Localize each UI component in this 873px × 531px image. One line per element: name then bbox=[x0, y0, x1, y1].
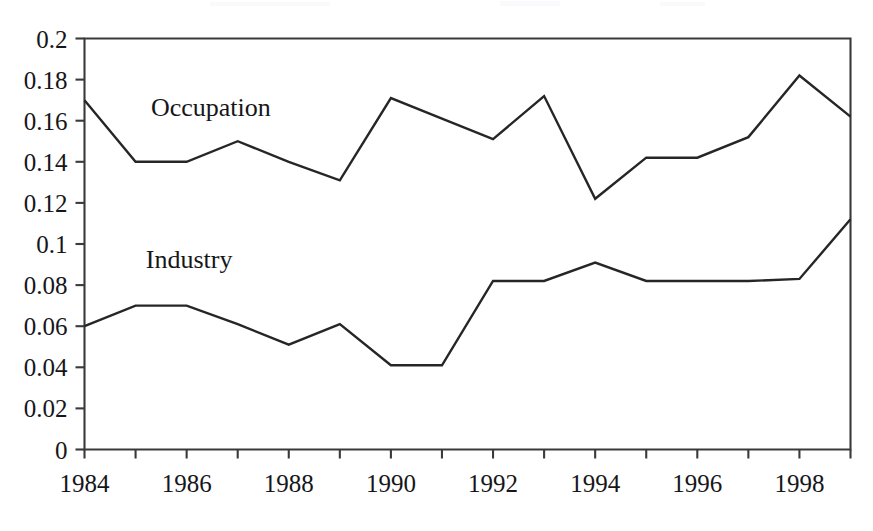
y-tick-label: 0 bbox=[55, 437, 68, 464]
y-tick-label: 0.2 bbox=[36, 26, 67, 53]
y-tick-label: 0.16 bbox=[24, 108, 68, 135]
chart-background bbox=[0, 0, 873, 531]
x-tick-label: 1994 bbox=[570, 470, 621, 497]
y-tick-label: 0.1 bbox=[36, 231, 67, 258]
y-tick-label: 0.02 bbox=[24, 395, 68, 422]
x-tick-label: 1984 bbox=[60, 470, 111, 497]
y-tick-label: 0.08 bbox=[24, 272, 68, 299]
x-tick-label: 1988 bbox=[264, 470, 314, 497]
y-tick-label: 0.12 bbox=[24, 190, 68, 217]
x-tick-label: 1992 bbox=[468, 470, 518, 497]
y-tick-label: 0.14 bbox=[24, 149, 68, 176]
x-tick-label: 1990 bbox=[366, 470, 416, 497]
line-chart: 00.020.040.060.080.10.120.140.160.180.2 … bbox=[0, 0, 873, 531]
y-tick-label: 0.04 bbox=[24, 354, 68, 381]
x-tick-label: 1998 bbox=[774, 470, 824, 497]
series-label-industry: Industry bbox=[146, 245, 233, 274]
x-tick-label: 1986 bbox=[162, 470, 212, 497]
series-label-occupation: Occupation bbox=[151, 93, 271, 122]
chart-canvas: 00.020.040.060.080.10.120.140.160.180.2 … bbox=[0, 0, 873, 531]
y-tick-label: 0.18 bbox=[24, 67, 68, 94]
y-tick-label: 0.06 bbox=[24, 313, 68, 340]
x-tick-label: 1996 bbox=[672, 470, 722, 497]
